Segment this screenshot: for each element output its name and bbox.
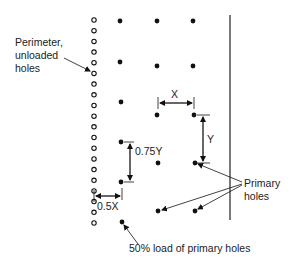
perimeter-hole [92, 103, 96, 107]
primary-hole [155, 113, 160, 118]
perimeter-label-line3: holes [15, 62, 40, 74]
dimension-x-label: X [171, 88, 178, 100]
dimension-x: X [158, 88, 194, 109]
dimension-0-75y-label: 0.75Y [135, 145, 162, 157]
half-load-label-text: 50% load of primary holes [129, 242, 250, 254]
half-load-holes [118, 19, 125, 225]
half-load-hole [120, 220, 125, 225]
half-load-label: 50% load of primary holes [124, 225, 250, 254]
primary-hole [193, 161, 198, 166]
half-load-hole [119, 140, 124, 145]
blast-hole-pattern-diagram: X Y 0.75Y 0.5X Perimeter, [0, 0, 295, 265]
perimeter-hole [92, 157, 96, 161]
dimension-0-5x-label: 0.5X [97, 200, 119, 212]
perimeter-hole [92, 125, 96, 129]
perimeter-hole [92, 210, 96, 214]
primary-hole [155, 64, 160, 69]
perimeter-hole [92, 93, 96, 97]
primary-hole [193, 209, 198, 214]
perimeter-label-line2: unloaded [15, 49, 58, 61]
perimeter-hole [92, 178, 96, 182]
perimeter-hole [92, 221, 96, 225]
perimeter-hole [92, 18, 96, 22]
dimension-y: Y [197, 115, 214, 163]
primary-hole [155, 19, 160, 24]
perimeter-hole [92, 29, 96, 33]
primary-holes-label: Primary holes [162, 164, 281, 210]
perimeter-hole [92, 82, 96, 86]
perimeter-hole [92, 146, 96, 150]
half-load-hole [119, 100, 124, 105]
primary-hole [156, 161, 161, 166]
perimeter-hole [92, 135, 96, 139]
perimeter-hole [92, 167, 96, 171]
primary-hole [156, 209, 161, 214]
half-load-hole [119, 180, 124, 185]
perimeter-hole [92, 71, 96, 75]
dimension-y-label: Y [207, 133, 214, 145]
perimeter-hole [92, 114, 96, 118]
perimeter-hole [92, 61, 96, 65]
dimension-0-5x: 0.5X [94, 188, 122, 212]
half-load-hole [118, 60, 123, 65]
perimeter-hole [92, 50, 96, 54]
primary-hole [191, 64, 196, 69]
perimeter-hole [92, 39, 96, 43]
primary-label-line2: holes [244, 190, 269, 202]
primary-hole [192, 113, 197, 118]
half-load-hole [118, 19, 123, 24]
primary-holes [155, 19, 198, 214]
primary-hole [191, 19, 196, 24]
perimeter-label-line1: Perimeter, [15, 36, 63, 48]
perimeter-label: Perimeter, unloaded holes [15, 36, 90, 74]
primary-label-line1: Primary [244, 177, 281, 189]
